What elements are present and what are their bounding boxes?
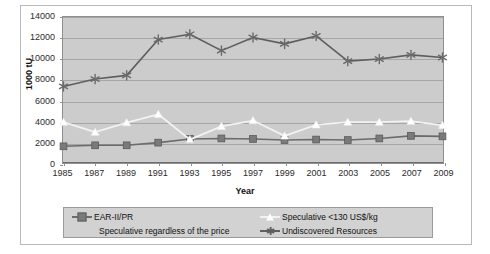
data-point xyxy=(123,142,130,149)
x-axis-line xyxy=(63,162,443,163)
y-tick-label: 6000 xyxy=(0,96,55,106)
series-ear-ii-pr xyxy=(60,132,446,149)
x-tick-label: 1985 xyxy=(52,168,72,178)
y-tick-mark xyxy=(60,165,63,166)
chart-figure: 1000 tU 02000400060008000100001200014000… xyxy=(0,0,490,254)
data-point xyxy=(344,137,351,144)
data-point xyxy=(155,139,162,146)
y-tick-label: 0 xyxy=(0,159,55,169)
x-tick-mark xyxy=(445,163,446,166)
x-tick-labels: 1985198719891991199319951997199920012003… xyxy=(62,168,444,182)
x-tick-label: 2003 xyxy=(338,168,358,178)
plot-wrapper xyxy=(62,16,444,164)
x-tick-label: 1989 xyxy=(116,168,136,178)
data-point xyxy=(217,46,225,55)
y-tick-label: 2000 xyxy=(0,138,55,148)
series-undiscovered-resources xyxy=(60,30,447,91)
data-point xyxy=(439,133,446,140)
x-axis-title: Year xyxy=(0,186,490,196)
x-tick-label: 1987 xyxy=(84,168,104,178)
data-point xyxy=(154,110,162,117)
legend-label: Speculative regardless of the price xyxy=(99,226,229,236)
x-tick-label: 2009 xyxy=(433,168,453,178)
legend-label: EAR-II/PR xyxy=(94,212,133,222)
legend-marker-triangle xyxy=(260,212,280,222)
x-tick-label: 1993 xyxy=(179,168,199,178)
legend-marker-square xyxy=(72,212,92,222)
y-tick-label: 12000 xyxy=(0,32,55,42)
y-tick-label: 8000 xyxy=(0,74,55,84)
data-point xyxy=(218,135,225,142)
data-point xyxy=(250,136,257,143)
x-tick-label: 2007 xyxy=(402,168,422,178)
series-plot xyxy=(63,17,443,164)
x-tick-label: 1997 xyxy=(243,168,263,178)
legend-label: Speculative <130 US$/kg xyxy=(282,212,378,222)
legend-item-speculative-regardless[interactable]: Speculative regardless of the price xyxy=(97,226,229,236)
x-tick-label: 1991 xyxy=(148,168,168,178)
x-tick-label: 1995 xyxy=(211,168,231,178)
data-point xyxy=(408,132,415,139)
y-tick-label: 4000 xyxy=(0,117,55,127)
legend-marker-asterisk: ✱ xyxy=(260,226,280,236)
y-tick-label: 10000 xyxy=(0,53,55,63)
legend-label: Undiscovered Resources xyxy=(282,226,377,236)
x-tick-label: 1999 xyxy=(275,168,295,178)
legend-item-speculative-130[interactable]: Speculative <130 US$/kg xyxy=(260,212,378,222)
x-tick-label: 2001 xyxy=(306,168,326,178)
data-point xyxy=(376,135,383,142)
data-point xyxy=(313,136,320,143)
y-tick-label: 14000 xyxy=(0,11,55,21)
data-point xyxy=(60,143,67,150)
legend-item-ear-ii-pr[interactable]: EAR-II/PR xyxy=(72,212,133,222)
x-tick-label: 2005 xyxy=(370,168,390,178)
plot-area xyxy=(62,16,444,164)
chart-legend: EAR-II/PR Speculative <130 US$/kg Specul… xyxy=(63,207,433,238)
legend-item-undiscovered-resources[interactable]: ✱ Undiscovered Resources xyxy=(260,226,377,236)
data-point xyxy=(92,142,99,149)
